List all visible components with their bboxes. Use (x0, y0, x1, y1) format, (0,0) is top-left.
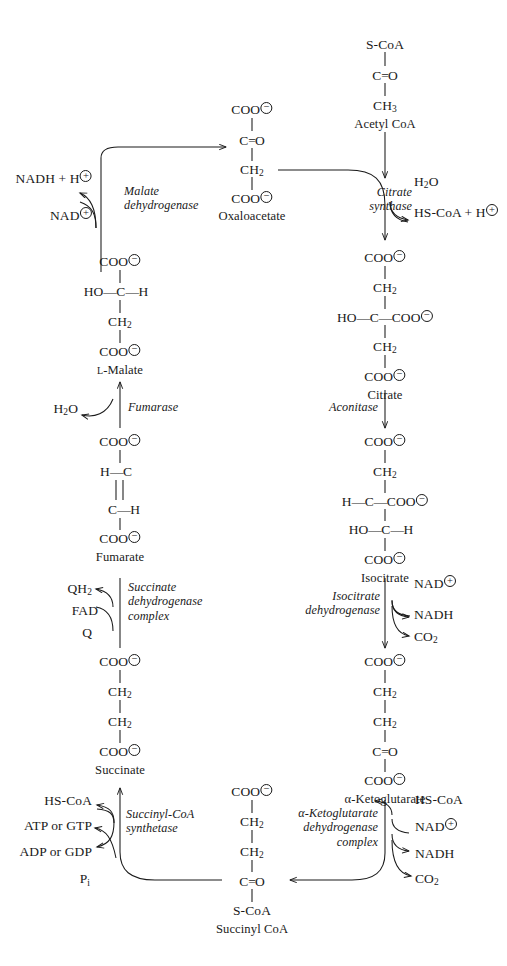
akg-line-ch2-2: CH2 (373, 715, 397, 731)
isocitrate-line-coo-2: COO− (364, 553, 405, 568)
charge-minus-icon: − (129, 531, 141, 543)
charge-minus-icon: − (394, 552, 406, 564)
akg-line-coo: COO− (364, 655, 405, 670)
curve-akgdh-nad-in (392, 819, 409, 833)
charge-minus-icon: − (129, 254, 141, 266)
enzyme-citrate-synthase: Citrate synthase (340, 185, 412, 214)
cofactor-mdh-nad-in: NAD+ (50, 209, 92, 223)
l-malate-label: L-Malate (97, 364, 143, 377)
charge-minus-icon: − (416, 494, 428, 506)
curve-akgdh-co2-out (392, 840, 411, 876)
cofactor-idh-co2-out: CO2 (414, 630, 438, 646)
curve-fumarase-h2o-in (82, 399, 113, 416)
curve-scs-hscoa-out (97, 822, 114, 847)
cofactor-sdh-qh2-out: QH2 (67, 582, 92, 598)
cofactor-fumarase-h2o-in: H2O (53, 402, 78, 418)
charge-plus-icon: + (445, 818, 457, 830)
citric-acid-cycle-diagram: S-CoA C​=​O CH3 Acetyl CoA COO− C=O CH2 … (0, 0, 507, 966)
oaa-line-coo: COO− (231, 103, 272, 118)
fumarate-line-coo: COO− (99, 435, 140, 450)
charge-minus-icon: − (394, 773, 406, 785)
enzyme-alpha-kg-dehydrogenase-complex: α-Ketoglutarate dehydrogenase complex (290, 806, 378, 849)
charge-plus-icon: + (80, 170, 92, 182)
charge-plus-icon: + (486, 204, 498, 216)
enzyme-malate-dehydrogenase: Malate dehydrogenase (124, 184, 216, 213)
cofactor-sdh-q-in: Q (82, 626, 92, 640)
enzyme-isocitrate-dehydrogenase: Isocitrate dehydrogenase (300, 589, 380, 618)
isocitrate-line-coo: COO− (364, 435, 405, 450)
akg-line-coo-2: COO− (364, 774, 405, 789)
cofactor-scs-atp-out: ATP or GTP (24, 819, 92, 833)
cofactor-akgdh-co2-out: CO2 (415, 872, 439, 888)
succoa-line-c-o: C=O (239, 875, 265, 889)
fumarate-line-coo-2: COO− (99, 532, 140, 547)
citrate-line-ch2: CH2 (373, 281, 397, 297)
charge-minus-icon: − (129, 654, 141, 666)
cofactor-scs-pi-in: Pi (80, 872, 90, 888)
succoa-line-ch2: CH2 (240, 815, 264, 831)
oaa-line-c-o: C=O (239, 134, 265, 148)
enzyme-aconitase: Aconitase (322, 400, 378, 414)
akg-line-c-o: C=O (372, 745, 398, 759)
fumarate-label: Fumarate (96, 551, 144, 564)
malate-line-coo-2: COO− (99, 345, 140, 360)
charge-minus-icon: − (129, 344, 141, 356)
cofactor-scs-hscoa-out: HS-CoA (44, 794, 92, 808)
succinate-line-ch2: CH2 (108, 685, 132, 701)
curve-idh-co2-out (392, 606, 409, 636)
akg-line-ch2: CH2 (373, 685, 397, 701)
charge-minus-icon: − (261, 784, 273, 796)
cofactor-sdh-fad: FAD (72, 604, 98, 618)
cofactor-cs-h2o-in: H2O (414, 175, 439, 191)
charge-plus-icon: + (80, 207, 92, 219)
malate-line-coo: COO− (99, 255, 140, 270)
isocitrate-label: Isocitrate (361, 572, 409, 585)
citrate-line-coo: COO− (364, 251, 405, 266)
succinate-line-ch2-2: CH2 (108, 715, 132, 731)
fumarate-line-c-h: C—H (108, 503, 140, 517)
charge-minus-icon: − (394, 654, 406, 666)
isocitrate-line-h-c-coo: H—C—COO− (342, 495, 428, 510)
charge-minus-icon: − (394, 369, 406, 381)
acetylcoa-label: Acetyl CoA (354, 118, 416, 131)
cofactor-akgdh-nad-in: NAD+ (415, 820, 457, 834)
succinate-line-coo: COO− (99, 655, 140, 670)
cofactor-akgdh-hscoa-in: HS-CoA (415, 793, 463, 807)
malate-line-ho-c-h: HO—C—H (84, 285, 149, 299)
isocitrate-line-ho-c-h: HO—C—H (349, 523, 414, 537)
acetylcoa-line-ch3: CH3 (373, 99, 397, 115)
enzyme-fumarase: Fumarase (128, 400, 192, 414)
oaa-line-ch2: CH2 (240, 163, 264, 179)
charge-minus-icon: − (394, 250, 406, 262)
curve-akgdh-nadh-out (392, 834, 409, 851)
charge-minus-icon: − (129, 744, 141, 756)
fumarate-line-h-c: H—C (100, 465, 132, 479)
succoa-line-s-coa: S-CoA (233, 904, 271, 918)
enzyme-succinyl-coa-synthetase: Succinyl-CoA synthetase (126, 807, 218, 836)
curve-scs-pi-in (95, 828, 116, 858)
citrate-line-ch2-2: CH2 (373, 340, 397, 356)
acetylcoa-line-c-o: C​=​O (372, 69, 398, 83)
oxaloacetate-label: Oxaloacetate (219, 210, 286, 223)
curve-scs-adp-in (97, 809, 114, 823)
cofactor-mdh-nadh-out: NADH + H+ (16, 172, 92, 186)
curve-sdh-qh2-out (96, 589, 113, 607)
enzyme-succinate-dehydrogenase-complex: Succinate dehydrogenase complex (128, 580, 224, 623)
cofactor-akgdh-nadh-out: NADH (415, 847, 454, 861)
succinyl-coa-label: Succinyl CoA (216, 923, 288, 936)
isocitrate-line-ch2: CH2 (373, 465, 397, 481)
oaa-line-coo-2: COO− (231, 192, 272, 207)
citrate-line-ho-c-coo: HO—C—COO− (337, 311, 433, 326)
curve-idh-nadh-out (392, 601, 409, 617)
cofactor-scs-adp-in: ADP or GDP (19, 845, 92, 859)
succoa-line-ch2-2: CH2 (240, 845, 264, 861)
cofactor-cs-hscoa-out: HS-CoA + H+ (414, 206, 498, 220)
cofactor-idh-nadh-out: NADH (414, 608, 453, 622)
charge-minus-icon: − (261, 191, 273, 203)
cofactor-idh-nad-in: NAD+ (414, 577, 456, 591)
acetylcoa-line-s-coa: S-CoA (366, 38, 404, 52)
citrate-line-coo-2: COO− (364, 370, 405, 385)
charge-plus-icon: + (444, 575, 456, 587)
curve-idh-nad-in (392, 600, 410, 616)
succinate-line-coo-2: COO− (99, 745, 140, 760)
